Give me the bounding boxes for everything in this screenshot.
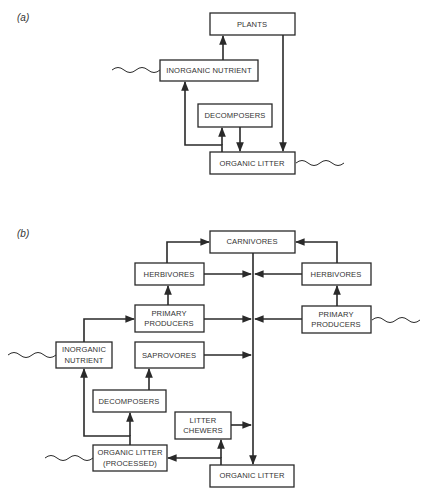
- wavy-output-organic-litter: [296, 161, 344, 166]
- node-label: DECOMPOSERS: [98, 397, 159, 406]
- node-label: DECOMPOSERS: [204, 111, 265, 120]
- node-label: CARNIVORES: [226, 237, 277, 246]
- node-primary-producers-left: PRIMARY PRODUCERS: [135, 305, 204, 332]
- node-organic-litter: ORGANIC LITTER: [210, 465, 294, 487]
- node-label: ORGANIC LITTER: [219, 159, 285, 168]
- node-label: HERBIVORES: [311, 270, 362, 279]
- node-carnivores: CARNIVORES: [210, 231, 295, 253]
- node-label-line2: (PROCESSED): [103, 459, 157, 468]
- panel-b: (b): [8, 228, 420, 487]
- wavy-input-inorganic: [112, 68, 160, 73]
- food-web-diagrams: (a) PLANTS INORGANIC NUTRIENT DECOMPOSER…: [0, 0, 427, 497]
- wavy-input-producers-right: [372, 318, 420, 323]
- node-herbivores-left: HERBIVORES: [135, 263, 204, 285]
- node-decomposers: DECOMPOSERS: [93, 390, 166, 412]
- panel-a-label: (a): [17, 12, 29, 23]
- node-label-line1: PRIMARY: [318, 310, 353, 319]
- node-label: INORGANIC NUTRIENT: [166, 66, 252, 75]
- wavy-input-inorganic: [8, 353, 56, 358]
- node-litter-chewers: LITTER CHEWERS: [175, 412, 231, 439]
- node-label-line2: PRODUCERS: [311, 320, 360, 329]
- arrow-herbivores-left-to-carnivores: [167, 242, 209, 263]
- node-herbivores-right: HERBIVORES: [302, 263, 371, 285]
- node-organic-litter-processed: ORGANIC LITTER (PROCESSED): [93, 445, 167, 471]
- node-decomposers: DECOMPOSERS: [198, 104, 272, 127]
- arrow-organic-litter-to-processed: [168, 458, 221, 465]
- node-label-line1: PRIMARY: [151, 309, 186, 318]
- node-label: HERBIVORES: [144, 270, 195, 279]
- node-label: PLANTS: [237, 20, 267, 29]
- arrow-herbivores-right-to-carnivores: [296, 242, 337, 263]
- node-label: ORGANIC LITTER: [219, 471, 285, 480]
- node-label-line2: NUTRIENT: [64, 356, 103, 365]
- wavy-output-processed-litter: [45, 456, 93, 461]
- node-primary-producers-right: PRIMARY PRODUCERS: [302, 306, 371, 333]
- node-inorganic-nutrient: INORGANIC NUTRIENT: [56, 342, 112, 368]
- arrow-inorganic-to-producers: [84, 319, 134, 342]
- node-inorganic-nutrient: INORGANIC NUTRIENT: [160, 60, 258, 81]
- node-organic-litter: ORGANIC LITTER: [210, 152, 295, 174]
- node-plants: PLANTS: [210, 13, 295, 35]
- node-label-line1: ORGANIC LITTER: [97, 448, 163, 457]
- node-label: SAPROVORES: [142, 351, 196, 360]
- node-label-line2: PRODUCERS: [144, 319, 193, 328]
- panel-a: (a) PLANTS INORGANIC NUTRIENT DECOMPOSER…: [17, 12, 344, 174]
- node-label-line1: LITTER: [190, 416, 217, 425]
- panel-b-label: (b): [17, 228, 29, 239]
- node-label-line1: INORGANIC: [62, 345, 106, 354]
- node-label-line2: CHEWERS: [183, 426, 223, 435]
- node-saprovores: SAPROVORES: [135, 342, 204, 368]
